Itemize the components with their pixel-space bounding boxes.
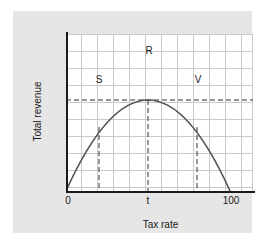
- point-label-s: S: [92, 74, 106, 85]
- figure-panel: S R V 0 t 100 Total revenue Tax rate: [13, 11, 252, 233]
- laffer-curve-figure: S R V 0 t 100 Total revenue Tax rate: [0, 0, 268, 247]
- x-axis-line: [66, 191, 255, 193]
- x-tick-label-100: 100: [216, 195, 246, 206]
- plot-area: S R V: [66, 34, 253, 191]
- laffer-curve-and-guides: [66, 34, 253, 191]
- curve-path: [66, 100, 230, 191]
- x-tick-label-0: 0: [53, 195, 83, 206]
- x-axis-title: Tax rate: [66, 219, 255, 230]
- x-tick-label-t: t: [133, 195, 163, 206]
- y-axis-title: Total revenue: [32, 57, 43, 167]
- y-axis-line: [66, 32, 68, 193]
- point-label-v: V: [191, 74, 205, 85]
- point-label-r: R: [142, 45, 156, 56]
